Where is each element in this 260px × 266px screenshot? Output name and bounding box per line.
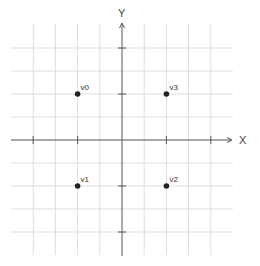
axes: X Y	[11, 7, 247, 256]
point-v3: v3	[164, 83, 179, 97]
point-marker-icon	[75, 183, 81, 189]
point-v1: v1	[75, 175, 90, 189]
point-marker-icon	[164, 183, 170, 189]
point-v0: v0	[75, 83, 90, 97]
coordinate-plane: X Y v0v1v2v3	[0, 0, 260, 266]
point-v2: v2	[164, 175, 179, 189]
point-marker-icon	[164, 91, 170, 97]
point-label: v0	[81, 83, 90, 92]
point-label: v3	[169, 83, 178, 92]
point-label: v1	[81, 175, 90, 184]
point-label: v2	[169, 175, 178, 184]
x-axis-label: X	[239, 134, 247, 146]
point-marker-icon	[75, 91, 81, 97]
points: v0v1v2v3	[75, 83, 179, 189]
y-axis-label: Y	[118, 7, 126, 19]
